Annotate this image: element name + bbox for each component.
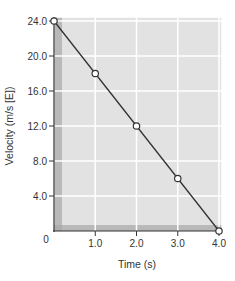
y-axis-label: Velocity (m/s [E]) — [3, 87, 15, 166]
data-point-marker — [175, 175, 181, 181]
x-tick-label: 1.0 — [88, 238, 102, 249]
y-tick-label: 24.0 — [28, 16, 48, 27]
x-tick-label: 3.0 — [171, 238, 185, 249]
x-tick-label: 4.0 — [212, 238, 226, 249]
x-axis-shadow — [54, 225, 222, 231]
y-tick-label: 4.0 — [33, 191, 47, 202]
y-tick-label: 12.0 — [28, 121, 48, 132]
data-point-marker — [216, 228, 222, 234]
data-point-marker — [133, 123, 139, 129]
x-tick-label: 2.0 — [130, 238, 144, 249]
data-point-marker — [92, 70, 98, 76]
velocity-time-chart: 4.08.012.016.020.024.001.02.03.04.0Time … — [0, 0, 235, 281]
y-axis-shadow — [55, 17, 62, 231]
x-tick-label: 0 — [43, 234, 49, 245]
x-axis-label: Time (s) — [118, 258, 156, 270]
y-tick-label: 16.0 — [28, 86, 48, 97]
data-point-marker — [51, 18, 57, 24]
y-tick-label: 8.0 — [33, 156, 47, 167]
y-tick-label: 20.0 — [28, 51, 48, 62]
